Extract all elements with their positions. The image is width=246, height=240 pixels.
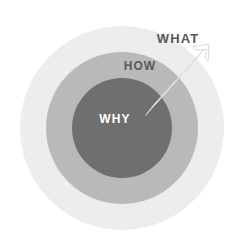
ring-label-how: HOW <box>124 59 157 73</box>
ring-label-why: WHY <box>99 112 130 126</box>
ring-label-what: WHAT <box>157 31 199 46</box>
ring-why-circle <box>72 78 172 178</box>
golden-circle-canvas: WHAT HOW WHY <box>0 0 246 240</box>
golden-circle-diagram: WHAT HOW WHY <box>0 0 246 240</box>
